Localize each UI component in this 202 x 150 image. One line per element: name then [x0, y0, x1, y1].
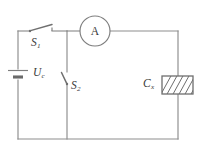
ammeter-label: A [80, 24, 110, 38]
circuit-schematic-svg [0, 0, 202, 150]
switch-s2-blade [62, 73, 67, 84]
capacitor-label-main: C [143, 77, 151, 89]
capacitor-cx [160, 74, 202, 96]
switch-s2-label: S2 [71, 80, 81, 93]
voltage-source-label: Uc [33, 67, 45, 80]
voltage-source-label-sub: c [41, 72, 44, 80]
switch-s1[interactable] [29, 25, 52, 33]
switch-s1-blade [31, 25, 53, 31]
capacitor-label: Cx [143, 78, 154, 91]
switch-s2[interactable] [62, 73, 69, 86]
switch-s1-label: S1 [31, 37, 41, 50]
switch-s2-label-main: S [71, 79, 77, 91]
circuit-diagram: A S1 S2 Uc Cx [0, 0, 202, 150]
switch-s1-label-sub: 1 [37, 42, 41, 50]
capacitor-label-sub: x [151, 83, 154, 91]
switch-s1-label-main: S [31, 36, 37, 48]
voltage-source-symbol [8, 71, 28, 78]
switch-s2-label-sub: 2 [77, 85, 81, 93]
